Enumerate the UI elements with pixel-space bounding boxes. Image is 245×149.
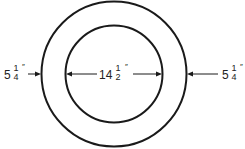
left-inch-mark: ″ bbox=[22, 63, 25, 71]
right-dimension-arrow bbox=[187, 72, 218, 77]
left-whole: 5 bbox=[4, 69, 11, 81]
center-inch-mark: ″ bbox=[125, 63, 128, 71]
right-fraction: 1 4 bbox=[230, 64, 238, 82]
center-dimension-arrow-left bbox=[66, 72, 97, 77]
center-whole: 14 bbox=[99, 69, 112, 81]
left-fraction: 1 4 bbox=[12, 64, 20, 82]
right-inch-mark: ″ bbox=[240, 63, 243, 71]
right-dimension-label: 5 1 4 ″ bbox=[221, 63, 245, 87]
center-fraction: 1 2 bbox=[114, 64, 122, 82]
right-whole: 5 bbox=[222, 69, 229, 81]
center-dimension-arrow-right bbox=[133, 72, 162, 77]
left-dimension-label: 5 1 4 ″ bbox=[3, 63, 31, 87]
center-dimension-label: 14 1 2 ″ bbox=[98, 63, 134, 87]
